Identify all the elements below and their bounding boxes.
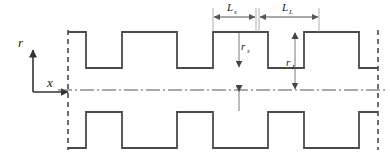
small-length-dimension: L s bbox=[213, 1, 256, 32]
coordinate-axes: r x bbox=[18, 35, 68, 92]
rs-subscript: s bbox=[247, 47, 250, 55]
upper-wall-profile bbox=[68, 32, 378, 68]
large-radius-dimension: r L bbox=[286, 33, 296, 89]
rl-label: r bbox=[286, 56, 291, 68]
corrugated-channel-diagram: r x L s L L r bbox=[0, 0, 390, 162]
rs-label: r bbox=[241, 40, 246, 52]
rl-subscript: L bbox=[291, 63, 296, 71]
ll-subscript: L bbox=[288, 8, 293, 16]
ls-subscript: s bbox=[234, 8, 237, 16]
axial-axis-label: x bbox=[46, 75, 53, 90]
large-length-dimension: L L bbox=[259, 1, 319, 32]
lower-wall-profile bbox=[68, 112, 378, 148]
small-radius-dimension: r s bbox=[239, 33, 250, 67]
ll-label: L bbox=[281, 1, 288, 13]
radial-axis-label: r bbox=[18, 35, 24, 50]
ls-label: L bbox=[226, 1, 233, 13]
